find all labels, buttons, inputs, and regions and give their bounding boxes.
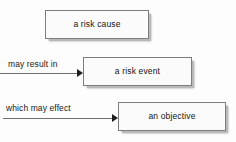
node-risk-event[interactable]: a risk event: [83, 57, 192, 86]
node-risk-cause[interactable]: a risk cause: [45, 10, 149, 39]
diagram-canvas: a risk cause a risk event an objective m…: [0, 0, 236, 142]
arrowhead-icon: [77, 69, 83, 77]
connector-may-result-in-label: may result in: [8, 60, 57, 69]
arrowhead-icon: [112, 114, 118, 122]
connector-which-may-effect-label: which may effect: [6, 104, 71, 113]
connector-which-may-effect-line: [3, 118, 114, 119]
node-objective-label: an objective: [148, 112, 195, 121]
node-objective[interactable]: an objective: [118, 102, 226, 131]
node-risk-event-label: a risk event: [115, 67, 160, 76]
connector-may-result-in-line: [0, 73, 79, 74]
node-risk-cause-label: a risk cause: [73, 20, 120, 29]
